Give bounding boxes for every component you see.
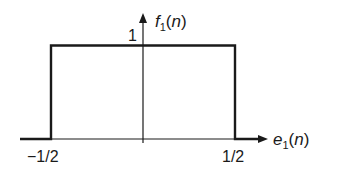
height-label: 1 xyxy=(128,27,137,44)
right-tick-label: 1/2 xyxy=(222,148,244,165)
rect-function-curve xyxy=(20,46,258,140)
diagram-canvas: f1(n) 1 e1(n) −1/2 1/2 xyxy=(0,0,345,173)
rect-function-diagram: f1(n) 1 e1(n) −1/2 1/2 xyxy=(0,0,345,173)
y-axis-arrow-icon xyxy=(139,13,147,23)
x-axis-label: e1(n) xyxy=(273,130,309,151)
left-tick-label: −1/2 xyxy=(27,148,59,165)
x-axis-arrow-icon xyxy=(258,135,268,143)
y-axis-label: f1(n) xyxy=(155,12,187,33)
